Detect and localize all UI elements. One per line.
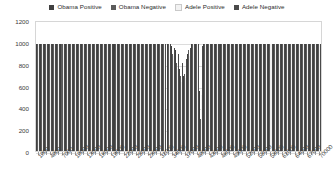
y-axis-tick-label: 1200 bbox=[15, 18, 29, 25]
legend-swatch-icon bbox=[175, 4, 182, 11]
y-axis: 020040060080010001200 bbox=[0, 21, 33, 152]
y-axis-tick-label: 800 bbox=[19, 61, 29, 68]
chart-legend: Obama PositiveObama NegativeAdele Positi… bbox=[0, 4, 334, 11]
bar-series-group bbox=[36, 22, 321, 151]
y-axis-tick-label: 200 bbox=[19, 127, 29, 134]
x-axis-labels: 1000400070001000013000160001900022000250… bbox=[36, 155, 321, 183]
legend-label: Adele Positive bbox=[185, 4, 225, 10]
y-axis-tick-label: 400 bbox=[19, 105, 29, 112]
chart-container: Obama PositiveObama NegativeAdele Positi… bbox=[0, 0, 334, 183]
bar[interactable] bbox=[320, 44, 321, 152]
bar-group bbox=[317, 22, 321, 151]
y-axis-tick-label: 600 bbox=[19, 83, 29, 90]
legend-item[interactable]: Obama Positive bbox=[49, 4, 101, 10]
legend-item[interactable]: Adele Positive bbox=[175, 4, 225, 11]
legend-swatch-icon bbox=[111, 5, 116, 10]
legend-item[interactable]: Adele Negative bbox=[234, 4, 285, 10]
legend-label: Obama Positive bbox=[57, 4, 101, 10]
y-axis-tick-label: 0 bbox=[26, 149, 29, 156]
legend-label: Adele Negative bbox=[242, 4, 285, 10]
legend-swatch-icon bbox=[234, 5, 239, 10]
y-axis-tick-label: 1000 bbox=[15, 39, 29, 46]
legend-swatch-icon bbox=[49, 5, 54, 10]
legend-item[interactable]: Obama Negative bbox=[111, 4, 166, 10]
legend-label: Obama Negative bbox=[119, 4, 166, 10]
